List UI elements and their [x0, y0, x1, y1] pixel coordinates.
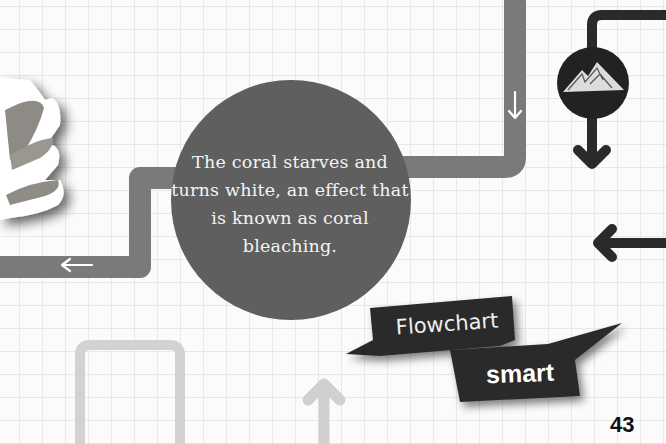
banner-subtitle: smart [460, 357, 581, 390]
page-number: 43 [610, 412, 634, 438]
coral-image [0, 78, 64, 220]
bubble-text: The coral starves and turns white, an ef… [170, 148, 410, 260]
path-right [380, 0, 521, 167]
path-dark [557, 15, 666, 257]
path-bottom [80, 345, 340, 444]
